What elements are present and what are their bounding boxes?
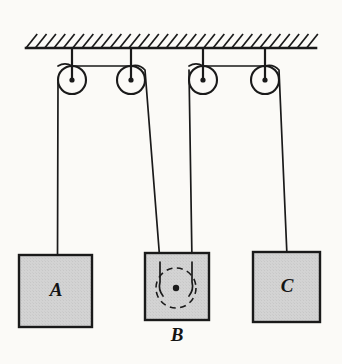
- block-B-label: B: [170, 324, 184, 345]
- pulley-2-axle: [128, 77, 133, 82]
- hidden-pulley-axle: [173, 285, 179, 291]
- pulley-diagram-figure: ABC: [0, 0, 342, 364]
- pulley-3-axle: [200, 77, 205, 82]
- pulley-4-axle: [262, 77, 267, 82]
- pulley-1-axle: [69, 77, 74, 82]
- block-C-label: C: [281, 275, 294, 296]
- diagram-canvas: ABC: [0, 0, 342, 364]
- blocks-group: [19, 252, 320, 327]
- block-A-label: A: [49, 279, 63, 300]
